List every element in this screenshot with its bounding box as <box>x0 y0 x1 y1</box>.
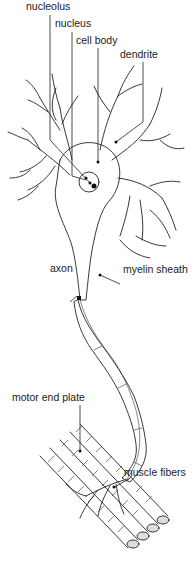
neuron-diagram: nucleolus nucleus cell body dendrite axo… <box>0 0 196 562</box>
label-dendrite: dendrite <box>120 49 158 60</box>
label-motor-end-plate: motor end plate <box>12 392 85 403</box>
label-myelin-sheath: myelin sheath <box>123 264 188 275</box>
nucleolus <box>92 184 97 189</box>
dendrites-right <box>94 66 184 258</box>
label-axon: axon <box>50 263 73 274</box>
label-nucleus: nucleus <box>55 18 91 29</box>
muscle-fibers <box>40 424 169 548</box>
axon-terminals <box>66 480 124 518</box>
cell-body <box>55 143 119 300</box>
label-muscle-fibers: muscle fibers <box>124 467 186 478</box>
dendrites-left <box>8 74 78 200</box>
label-nucleolus: nucleolus <box>26 1 70 12</box>
label-cell-body: cell body <box>76 35 117 46</box>
